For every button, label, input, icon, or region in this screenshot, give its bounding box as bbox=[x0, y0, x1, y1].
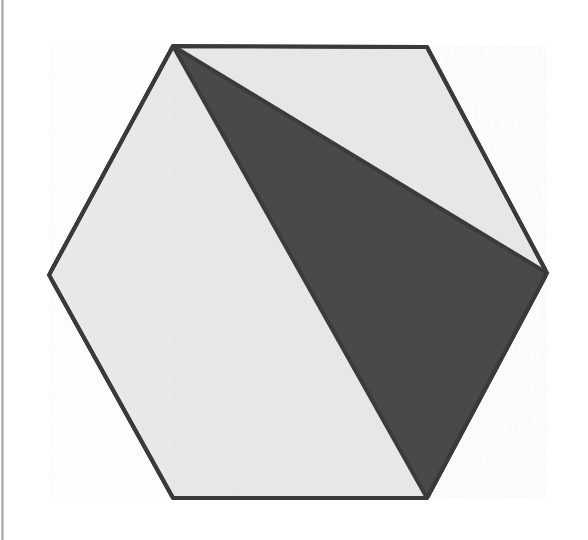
scan-edge-artifact bbox=[1, 0, 4, 540]
geometry-figure bbox=[0, 0, 588, 540]
figure-canvas bbox=[0, 0, 588, 540]
